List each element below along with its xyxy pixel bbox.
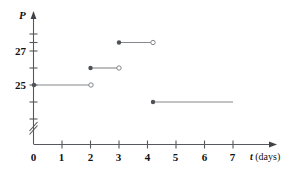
step-function-chart: P 27 25 0 1 2 3 4 5 6 7 t (days): [0, 0, 301, 172]
chart-canvas: [0, 0, 301, 172]
y-tick-label-25: 25: [4, 80, 26, 91]
axes-group: [30, 11, 278, 147]
step-segment-4: [151, 100, 233, 104]
x-axis-title-units: (days): [253, 151, 281, 162]
x-tick-label-7: 7: [225, 152, 240, 163]
x-tick-label-5: 5: [168, 152, 183, 163]
x-tick-label-6: 6: [197, 152, 212, 163]
x-tick-label-1: 1: [54, 152, 69, 163]
step-segment-2-end-dot-open: [117, 66, 121, 70]
x-tick-label-0: 0: [26, 152, 41, 163]
x-axis-arrow-icon: [269, 142, 277, 148]
x-tick-label-2: 2: [83, 152, 98, 163]
step-segment-1: [32, 83, 93, 87]
step-segments-group: [32, 40, 233, 104]
step-segment-4-start-dot-filled: [151, 100, 155, 104]
step-segment-3: [117, 40, 155, 44]
step-segment-2-start-dot-filled: [88, 66, 92, 70]
step-segment-3-end-dot-open: [151, 40, 155, 44]
step-segment-3-start-dot-filled: [117, 40, 121, 44]
x-tick-label-3: 3: [111, 152, 126, 163]
x-axis-title: t (days): [250, 152, 280, 162]
y-axis-arrow-icon: [31, 11, 37, 19]
step-segment-2: [88, 66, 121, 70]
y-tick-label-27: 27: [4, 46, 26, 57]
x-tick-label-4: 4: [140, 152, 155, 163]
step-segment-1-start-dot-filled: [32, 83, 36, 87]
y-axis-title: P: [19, 10, 26, 21]
step-segment-1-end-dot-open: [89, 83, 93, 87]
